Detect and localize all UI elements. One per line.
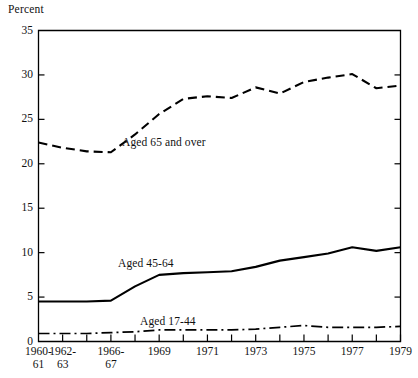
- x-axis-tick-label-line1: 1979: [371, 345, 418, 358]
- series-line-2: [39, 247, 401, 301]
- plot-frame: [39, 31, 401, 342]
- series-label-1: Aged 65 and over: [122, 136, 206, 148]
- series-label-3: Aged 17-44: [140, 315, 196, 327]
- series-label-2: Aged 45-64: [118, 257, 174, 269]
- y-axis-tick-label: 30: [0, 68, 33, 80]
- y-axis-tick-label: 35: [0, 24, 33, 36]
- series-line-1: [39, 74, 401, 152]
- chart-plot-area: [0, 0, 418, 378]
- x-axis-tick-label: 1979: [371, 345, 418, 358]
- y-axis-tick-label: 10: [0, 246, 33, 258]
- y-axis-tick-label: 5: [0, 290, 33, 302]
- data-series-group: [39, 74, 401, 333]
- y-axis-tick-label: 15: [0, 201, 33, 213]
- series-line-3: [39, 326, 401, 334]
- chart-container: Percent 05101520253035 1960-611962-63196…: [0, 0, 418, 378]
- y-axis-tick-label: 20: [0, 157, 33, 169]
- x-axis-tick-label-line2: 67: [81, 358, 141, 371]
- axes-group: [39, 31, 401, 342]
- y-axis-tick-label: 25: [0, 112, 33, 124]
